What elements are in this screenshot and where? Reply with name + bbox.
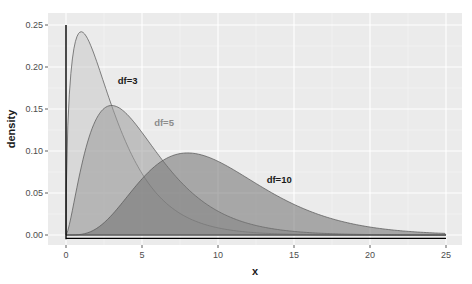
y-axis-ticks: 0.000.050.100.150.200.25 [25, 20, 48, 240]
y-tick-label: 0.05 [25, 188, 43, 198]
x-tick-label: 25 [441, 250, 451, 260]
y-tick-label: 0.25 [25, 20, 43, 30]
x-tick-label: 0 [63, 250, 68, 260]
y-tick-label: 0.20 [25, 62, 43, 72]
chart-canvas: 0.000.050.100.150.200.25 0510152025 df=3… [0, 0, 472, 284]
y-tick-label: 0.10 [25, 146, 43, 156]
x-axis-ticks: 0510152025 [63, 245, 451, 260]
annotation-df3: df=3 [118, 75, 138, 86]
y-tick-label: 0.00 [25, 230, 43, 240]
x-tick-label: 10 [213, 250, 223, 260]
x-tick-label: 5 [139, 250, 144, 260]
y-axis-title: density [5, 109, 17, 148]
x-tick-label: 20 [365, 250, 375, 260]
annotation-df5: df=5 [154, 117, 175, 128]
annotation-df10: df=10 [267, 174, 292, 185]
y-tick-label: 0.15 [25, 104, 43, 114]
x-axis-title: x [252, 265, 259, 277]
x-tick-label: 15 [289, 250, 299, 260]
